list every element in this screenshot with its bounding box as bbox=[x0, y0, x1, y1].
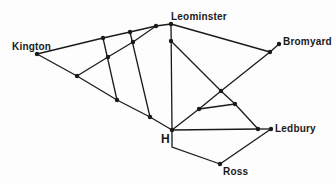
road-edge-v1-x1 bbox=[171, 41, 221, 91]
road-edge-h-ledbury_j bbox=[172, 129, 258, 130]
node-p2 bbox=[233, 102, 237, 106]
label-ledbury: Ledbury bbox=[275, 124, 316, 134]
road-edge-x1-p2 bbox=[221, 91, 235, 104]
road-edge-t2-b2 bbox=[130, 32, 150, 117]
node-ledbury_j bbox=[256, 127, 260, 131]
road-edge-p1-h bbox=[172, 109, 199, 130]
node-kington bbox=[35, 52, 39, 56]
node-v1 bbox=[169, 39, 173, 43]
node-leominster bbox=[169, 22, 173, 26]
node-ross bbox=[218, 162, 222, 166]
node-t2 bbox=[128, 30, 132, 34]
road-edge-t1-b1 bbox=[103, 38, 117, 100]
road-edge-m1-b1 bbox=[77, 76, 117, 100]
node-b2 bbox=[148, 115, 152, 119]
road-edge-h-ross bbox=[172, 130, 220, 164]
network-graph bbox=[0, 0, 336, 184]
node-bromyard_j bbox=[268, 50, 272, 54]
node-m3 bbox=[131, 40, 135, 44]
road-edge-b2-h bbox=[150, 117, 172, 130]
node-p1 bbox=[197, 107, 201, 111]
node-bromyard bbox=[277, 42, 281, 46]
road-edge-b1-b2 bbox=[117, 100, 150, 117]
road-edge-m2-m3 bbox=[108, 42, 133, 57]
node-m1 bbox=[75, 74, 79, 78]
node-m2 bbox=[106, 55, 110, 59]
node-x1 bbox=[219, 89, 223, 93]
node-b1 bbox=[115, 98, 119, 102]
label-leominster: Leominster bbox=[171, 12, 227, 22]
label-kington: Kington bbox=[12, 42, 51, 52]
road-edge-m1-m2 bbox=[77, 57, 108, 76]
road-network-diagram: KingtonLeominsterBromyardHLedburyRoss bbox=[0, 0, 336, 184]
label-bromyard: Bromyard bbox=[283, 37, 332, 47]
label-ross: Ross bbox=[223, 167, 248, 177]
road-edge-t3-leominster bbox=[156, 24, 171, 26]
node-t3 bbox=[154, 24, 158, 28]
road-edge-ledbury-ross bbox=[220, 129, 271, 164]
road-edge-bromyard_j-x1 bbox=[221, 52, 270, 91]
road-edge-leominster-bromyard_j bbox=[171, 24, 270, 52]
road-edge-p2-ledbury_j bbox=[235, 104, 258, 129]
road-edge-t1-t2 bbox=[103, 32, 130, 38]
label-h: H bbox=[161, 133, 170, 145]
node-ledbury bbox=[269, 127, 273, 131]
node-t1 bbox=[101, 36, 105, 40]
road-edge-kington-m1 bbox=[37, 54, 77, 76]
node-h bbox=[170, 128, 174, 132]
